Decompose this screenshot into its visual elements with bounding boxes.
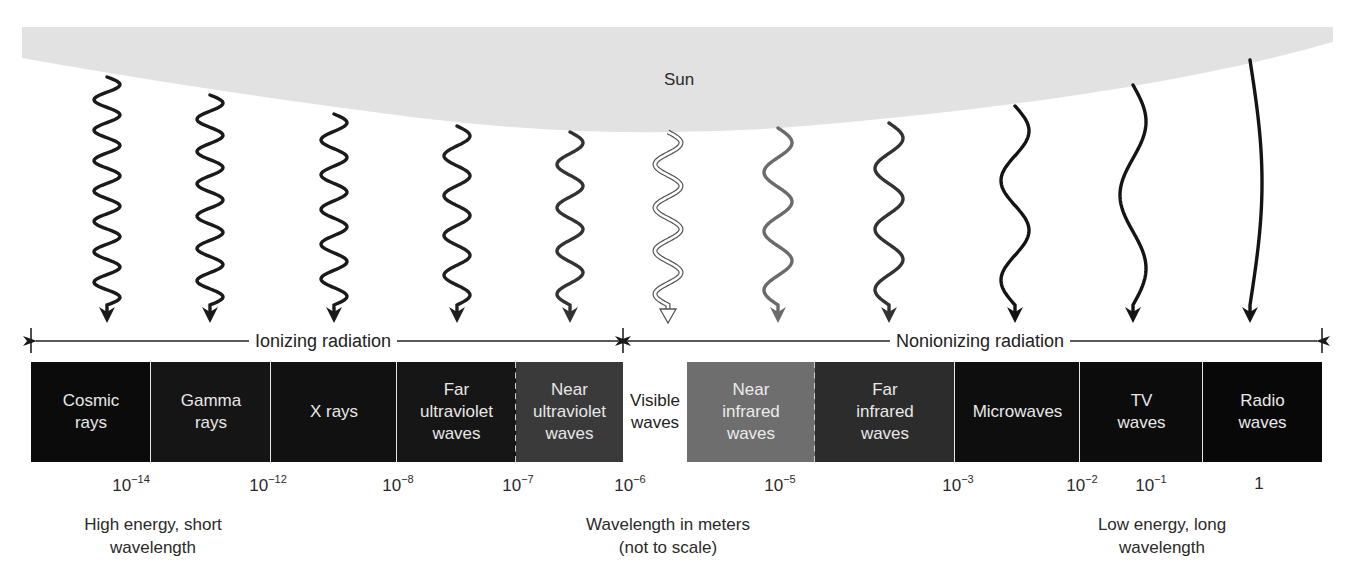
band-tv-waves: TVwaves	[1080, 362, 1203, 462]
tick-base: 10	[1135, 476, 1154, 495]
wave-far-ir-icon	[875, 123, 903, 323]
tick-exponent: −1	[1154, 473, 1167, 485]
band-label-line: ultraviolet	[420, 401, 493, 423]
tick-exponent: −6	[633, 473, 646, 485]
band-cosmic-rays: Cosmicrays	[31, 362, 151, 462]
band-label-line: Far	[856, 379, 914, 401]
tick-exponent: −5	[783, 473, 796, 485]
band-near-ultraviolet-waves: Nearultravioletwaves	[516, 362, 623, 462]
wave-cosmic-icon	[94, 77, 120, 323]
wave-micro-icon	[1001, 106, 1029, 323]
band-label-line: rays	[63, 412, 120, 434]
tick-exponent: −2	[1085, 473, 1098, 485]
band-x-rays: X rays	[271, 362, 397, 462]
nonionizing-radiation-label: Nonionizing radiation	[890, 331, 1070, 352]
band-label-line: waves	[420, 423, 493, 445]
band-label-line: Far	[420, 379, 493, 401]
ionizing-radiation-label: Ionizing radiation	[249, 331, 397, 352]
band-label-line: waves	[856, 423, 914, 445]
band-label-line: waves	[1117, 412, 1165, 434]
band-far-ultraviolet-waves: Farultravioletwaves	[397, 362, 516, 462]
band-label-line: infrared	[856, 401, 914, 423]
tick-exponent: −3	[961, 473, 974, 485]
wave-far-uv-icon	[444, 126, 470, 323]
tick-base: 10	[764, 476, 783, 495]
tick-exponent: −7	[521, 473, 534, 485]
tick-base: 10	[942, 476, 961, 495]
tick-base: 10	[614, 476, 633, 495]
low-energy-line-2: wavelength	[1119, 538, 1205, 557]
band-near-infrared-waves: Nearinfraredwaves	[687, 362, 815, 462]
band-label-line: TV	[1117, 390, 1165, 412]
spectrum-band-bar: CosmicraysGammaraysX raysFarultravioletw…	[31, 362, 1322, 462]
wavelength-tick: 10−3	[942, 474, 973, 496]
band-visible-waves: Visiblewaves	[623, 362, 687, 462]
band-far-infrared-waves: Farinfraredwaves	[815, 362, 955, 462]
axis-title: Wavelength in meters (not to scale)	[586, 513, 750, 559]
sun-label: Sun	[664, 70, 694, 90]
band-label-line: waves	[630, 412, 680, 434]
band-label-line: Near	[722, 379, 780, 401]
axis-title-line-1: Wavelength in meters	[586, 515, 750, 534]
band-label-line: X rays	[310, 401, 358, 423]
wavelength-tick: 10−1	[1135, 474, 1166, 496]
band-label-line: ultraviolet	[533, 401, 606, 423]
wave-near-uv-icon	[557, 132, 583, 323]
wavelength-tick: 10−8	[382, 474, 413, 496]
wavelength-tick: 10−6	[614, 474, 645, 496]
tick-base: 1	[1254, 474, 1263, 493]
band-label-line: Microwaves	[973, 401, 1063, 423]
tick-base: 10	[502, 476, 521, 495]
low-energy-line-1: Low energy, long	[1098, 515, 1226, 534]
band-microwaves: Microwaves	[955, 362, 1080, 462]
band-label-line: waves	[533, 423, 606, 445]
band-gamma-rays: Gammarays	[151, 362, 271, 462]
axis-title-line-2: (not to scale)	[619, 538, 717, 557]
radiation-brackets	[31, 328, 1322, 353]
wave-visible-icon	[655, 132, 681, 323]
tick-exponent: −8	[401, 473, 414, 485]
wavelength-tick: 10−2	[1066, 474, 1097, 496]
tick-exponent: −12	[268, 473, 287, 485]
wave-tv-icon	[1120, 85, 1146, 323]
tick-base: 10	[1066, 476, 1085, 495]
wavelength-tick: 10−5	[764, 474, 795, 496]
wavelength-tick: 10−7	[502, 474, 533, 496]
band-label-line: infrared	[722, 401, 780, 423]
band-radio-waves: Radiowaves	[1203, 362, 1322, 462]
tick-base: 10	[112, 476, 131, 495]
high-energy-note: High energy, short wavelength	[84, 513, 222, 559]
tick-exponent: −14	[131, 473, 150, 485]
band-label-line: waves	[1238, 412, 1286, 434]
high-energy-line-1: High energy, short	[84, 515, 222, 534]
wave-radio-icon	[1242, 60, 1262, 323]
high-energy-line-2: wavelength	[110, 538, 196, 557]
wave-gamma-icon	[197, 95, 223, 323]
tick-base: 10	[382, 476, 401, 495]
band-label-line: waves	[722, 423, 780, 445]
band-label-line: rays	[181, 412, 241, 434]
wavelength-tick: 1	[1254, 474, 1263, 494]
wavelength-tick: 10−14	[112, 474, 150, 496]
wave-xray-icon	[321, 114, 347, 323]
band-label-line: Near	[533, 379, 606, 401]
low-energy-note: Low energy, long wavelength	[1098, 513, 1226, 559]
wave-near-ir-icon	[764, 128, 792, 323]
band-label-line: Radio	[1238, 390, 1286, 412]
band-label-line: Cosmic	[63, 390, 120, 412]
band-label-line: Visible	[630, 390, 680, 412]
wavelength-tick: 10−12	[249, 474, 287, 496]
band-label-line: Gamma	[181, 390, 241, 412]
tick-base: 10	[249, 476, 268, 495]
